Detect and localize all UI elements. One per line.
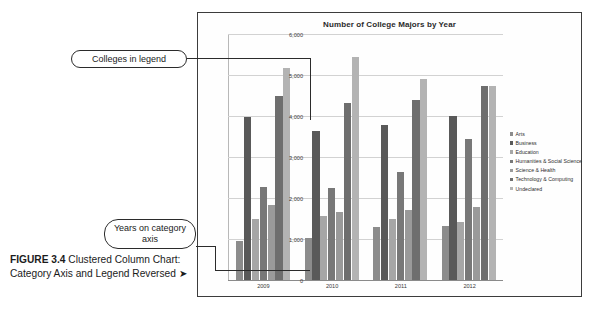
bar [389,219,396,281]
leader-line-years-horizontal-2 [215,270,310,271]
legend-item: Business [510,140,580,146]
x-axis-label-2011: 2011 [367,283,436,289]
legend-swatch-icon [510,178,513,181]
bar [268,205,275,280]
x-axis-label-2010: 2010 [298,283,367,289]
leader-line-legend-vertical [310,58,311,120]
bar [328,188,335,280]
legend-label: Arts [516,131,525,137]
bar [442,226,449,280]
leader-line-years-horizontal [196,246,216,247]
y-axis-tick-label: 4,000 [275,114,303,120]
x-axis-line [228,280,503,281]
bar [457,222,464,280]
bar [352,57,359,280]
bar-cluster-2011 [366,35,435,280]
bar [312,131,319,280]
bar [397,172,404,280]
chart-container: Number of College Majors by Year 01,0002… [197,12,582,297]
legend-item: Technology & Computing [510,176,580,182]
legend-swatch-icon [510,132,513,135]
plot-inner [228,35,503,281]
legend-swatch-icon [510,141,513,144]
legend-label: Humanities & Social Science [516,158,582,164]
bar [481,86,488,280]
legend-label: Technology & Computing [516,176,574,182]
legend-swatch-icon [510,187,513,190]
bar-cluster-2012 [435,35,504,280]
legend-label: Business [516,140,537,146]
bar [473,207,480,280]
legend-item: Arts [510,131,580,137]
bar-clusters [229,35,503,280]
figure-label: FIGURE 3.4 [10,254,65,265]
legend-swatch-icon [510,150,513,153]
callout-colleges-in-legend: Colleges in legend [71,50,187,68]
legend-label: Science & Health [516,167,556,173]
legend-item: Education [510,149,580,155]
arrow-icon: ➤ [179,268,187,279]
bar [344,103,351,280]
bar [381,125,388,280]
bar [244,117,251,280]
bar [236,241,243,280]
bar [465,139,472,280]
bar [373,227,380,280]
y-axis-tick-label: 5,000 [275,73,303,79]
legend-swatch-icon [510,169,513,172]
bar [489,86,496,280]
x-axis-label-2009: 2009 [229,283,298,289]
plot-area [228,35,503,281]
bar [420,79,427,280]
bar [405,210,412,280]
callout-years-on-category-axis: Years on category axis [104,219,196,249]
bar [275,96,282,280]
bar [336,212,343,280]
leader-line-years-vertical [215,246,216,271]
bar [305,238,312,280]
bar [320,216,327,280]
bar [412,100,419,280]
bar-cluster-2010 [298,35,367,280]
legend-item: Humanities & Social Science [510,158,580,164]
legend-item: Science & Health [510,167,580,173]
legend-item: Undeclared [510,186,580,192]
x-axis-label-2012: 2012 [435,283,504,289]
bar [283,68,290,280]
y-axis-tick-label: 2,000 [275,196,303,202]
y-axis-tick-label: 3,000 [275,155,303,161]
bar [260,187,267,280]
chart-title: Number of College Majors by Year [198,20,581,29]
chart-legend: ArtsBusinessEducationHumanities & Social… [510,131,580,195]
legend-label: Undeclared [516,186,543,192]
x-axis-labels: 2009201020112012 [229,283,504,289]
leader-line-legend-horizontal [187,58,311,59]
legend-label: Education [516,149,539,155]
figure-caption: FIGURE 3.4 Clustered Column Chart: Categ… [10,253,190,280]
legend-swatch-icon [510,160,513,163]
y-axis-tick-label: 1,000 [275,237,303,243]
y-axis-tick-label: 6,000 [275,32,303,38]
bar [449,116,456,280]
